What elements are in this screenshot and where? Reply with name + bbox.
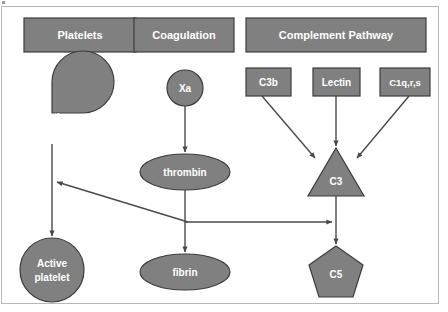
node-c1qrs-label: C1q,r,s bbox=[389, 77, 421, 88]
node-lectin-label: Lectin bbox=[322, 77, 351, 88]
diagram-canvas: Platelets Coagulation Complement Pathway… bbox=[0, 0, 448, 312]
node-c3b-label: C3b bbox=[259, 77, 278, 88]
scan-speck bbox=[2, 1, 5, 4]
node-inactive-platelet[interactable]: Inactive bbox=[33, 51, 114, 123]
node-fibrin-label: fibrin bbox=[173, 267, 198, 278]
pacman-shape bbox=[52, 51, 114, 113]
node-thrombin[interactable]: thrombin bbox=[140, 154, 230, 190]
header-row: Platelets Coagulation Complement Pathway bbox=[24, 18, 426, 52]
node-xa[interactable]: Xa bbox=[167, 70, 203, 106]
node-c3[interactable]: C3 bbox=[308, 148, 364, 196]
header-complement-pathway[interactable]: Complement Pathway bbox=[246, 18, 426, 52]
node-fibrin[interactable]: fibrin bbox=[140, 254, 230, 290]
header-platelets[interactable]: Platelets bbox=[24, 18, 136, 52]
node-c3b[interactable]: C3b bbox=[246, 68, 291, 96]
header-complement-pathway-label: Complement Pathway bbox=[279, 29, 394, 41]
pathway-diagram: Platelets Coagulation Complement Pathway… bbox=[0, 0, 448, 312]
edge-c1qrs-to-c3 bbox=[357, 96, 409, 158]
node-c5-label: C5 bbox=[330, 269, 343, 280]
node-c5[interactable]: C5 bbox=[309, 246, 363, 297]
header-coagulation-label: Coagulation bbox=[152, 29, 216, 41]
edge-layer bbox=[52, 96, 409, 252]
node-lectin[interactable]: Lectin bbox=[313, 68, 360, 96]
node-active-platelet-label-line2: platelet bbox=[34, 272, 70, 283]
node-c3-label: C3 bbox=[330, 176, 343, 187]
node-active-platelet-label-line1: Active bbox=[37, 258, 67, 269]
header-coagulation[interactable]: Coagulation bbox=[134, 18, 234, 52]
node-thrombin-label: thrombin bbox=[163, 167, 206, 178]
node-layer: Inactive Active platelet Xa thrombin bbox=[20, 51, 430, 302]
edge-c3b-to-c3 bbox=[262, 96, 315, 158]
triangle-shape bbox=[308, 148, 364, 196]
node-active-platelet[interactable]: Active platelet bbox=[20, 238, 84, 302]
node-inactive-platelet-label: Inactive bbox=[33, 112, 71, 123]
node-xa-label: Xa bbox=[179, 83, 192, 94]
header-platelets-label: Platelets bbox=[57, 29, 102, 41]
node-c1qrs[interactable]: C1q,r,s bbox=[380, 68, 430, 96]
